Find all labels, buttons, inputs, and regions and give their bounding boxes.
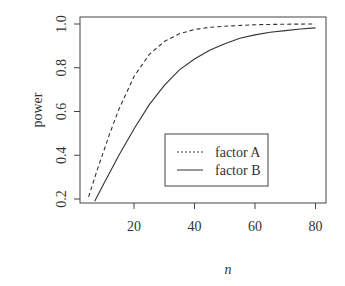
x-tick-label: 40 bbox=[188, 219, 202, 234]
legend: factor A factor B bbox=[165, 134, 268, 186]
y-axis-label: power bbox=[30, 92, 45, 127]
y-tick-label: 0.4 bbox=[54, 147, 69, 165]
legend-box bbox=[165, 134, 268, 186]
x-tick-label: 20 bbox=[127, 219, 141, 234]
y-tick-label: 0.8 bbox=[54, 59, 69, 77]
x-axis-label: n bbox=[225, 262, 232, 277]
y-tick-label: 0.2 bbox=[54, 190, 69, 208]
x-axis: 20406080 bbox=[127, 203, 323, 234]
x-tick-label: 60 bbox=[248, 219, 262, 234]
y-tick-label: 0.6 bbox=[54, 103, 69, 121]
legend-label-factor-a: factor A bbox=[215, 145, 261, 160]
power-chart: 0.20.40.60.81.0 20406080 power n factor … bbox=[0, 0, 345, 286]
y-tick-label: 1.0 bbox=[54, 15, 69, 33]
legend-label-factor-b: factor B bbox=[215, 163, 260, 178]
x-tick-label: 80 bbox=[309, 219, 323, 234]
y-axis: 0.20.40.60.81.0 bbox=[54, 15, 80, 208]
